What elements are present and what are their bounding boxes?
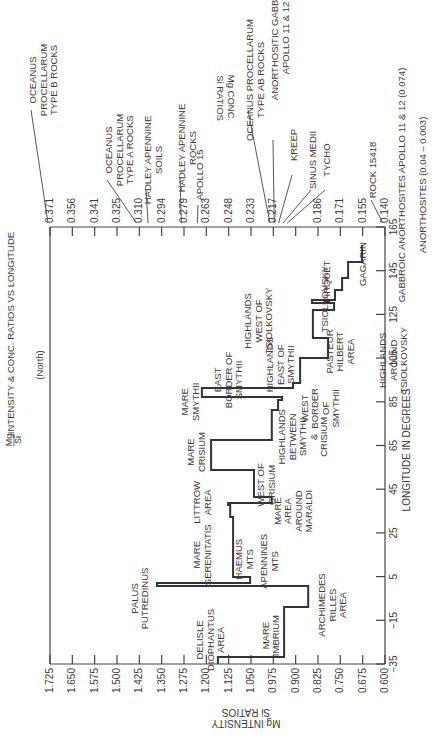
region-label-line: SMYTHII [330, 389, 341, 428]
reference-label-line: APOLLO 15 [194, 149, 205, 200]
chart: 1.7251.6501.5751.5001.4251.3501.2751.200… [0, 0, 445, 740]
conc-tick-label-line: 0.233 [245, 198, 256, 223]
intensity-tick-label: 1.575 [89, 668, 100, 693]
region-label-line: AREA [202, 489, 213, 516]
conc-tick-label: 0.233 [245, 198, 256, 223]
intensity-tick-label: 0.825 [312, 668, 323, 693]
intensity-tick-label-line: 1.425 [133, 668, 144, 693]
region-label-line: DIOPHANTUS [205, 609, 216, 671]
region-label-line: HAEMUS [233, 539, 244, 580]
conc-tick-label-line: 0.171 [334, 198, 345, 223]
region-label: PIRQUET [321, 260, 332, 302]
reference-label-line: APOLLO 11 & 12 [280, 2, 291, 75]
region-label-line: PALUS [129, 583, 140, 613]
region-label: MAREAREAAROUNDMARALDI [272, 490, 315, 532]
intensity-tick-label-line: 0.675 [357, 668, 368, 693]
title-frac-den: Si [13, 436, 23, 444]
chart-subtitle: (North) [34, 350, 45, 380]
intensity-tick-label-line: 0.825 [312, 668, 323, 693]
region-label: WEST OFCRISIUM [255, 463, 277, 506]
region-label-line: APENNINES [258, 534, 269, 589]
reference-label-line: OCEANUS [27, 57, 38, 104]
y2-axis-title: Mg CONC.Si RATIOS [215, 75, 237, 121]
longitude-tick-label-line: 65 [388, 440, 399, 452]
reference-label-line: HADLEY APENNINE [142, 116, 153, 205]
region-label-line: TSIOLKOVSKY [263, 287, 274, 354]
region-label-line: AREA [215, 626, 226, 653]
reference-label-line: TYPE AB ROCKS [255, 42, 266, 118]
chart-title: INTENSITY & CONC. RATIOS VS LONGITUDE [5, 232, 16, 434]
region-label: HAEMUSMTS [233, 539, 255, 580]
conc-tick-label: 0.279 [178, 198, 189, 223]
region-label-line: AREA [282, 497, 293, 524]
region-label: LITTROWAREA [191, 481, 213, 524]
longitude-tick-label: 45 [388, 483, 399, 495]
intensity-tick-label-line: 1.350 [156, 668, 167, 693]
region-label-line: SMYTHII [297, 417, 308, 456]
region-label-line: AROUND [388, 340, 399, 381]
longitude-tick-label: −35 [388, 655, 399, 672]
reference-label-line: ROCK 15418 [367, 142, 378, 199]
y-axis-title: Mg INTENSITYSi RATIOS [211, 707, 280, 729]
x-axis-title-line: LONGITUDE IN DEGREES [401, 388, 412, 511]
intensity-tick-label-line: 1.725 [44, 668, 55, 693]
longitude-tick-label-line: 5 [388, 573, 399, 579]
y2-axis-title-line: Mg CONC. [226, 75, 237, 121]
reference-label: ANORTHOSITIC GABBROICAPOLLO 11 & 12 [269, 0, 291, 100]
reference-arrow [31, 110, 48, 223]
region-labels: DELISLEDIOPHANTUSAREAMAREIMBRIUMARCHIMED… [129, 242, 410, 671]
region-label-line: SMYTHII [233, 361, 244, 400]
region-label-line: AROUND [293, 490, 304, 531]
intensity-tick-label-line: 0.900 [290, 668, 301, 693]
reference-arrow [197, 205, 198, 223]
region-label: MAREIMBRIUM [260, 615, 282, 656]
conc-tick-label-line: 0.155 [357, 198, 368, 223]
longitude-tick-label: 65 [388, 440, 399, 452]
intensity-tick-label: 1.725 [44, 668, 55, 693]
reference-label: OCEANUSPROCELLARUMTYPE B ROCKS [27, 44, 59, 116]
region-label-line: MTS [269, 551, 280, 571]
intensity-tick-label: 1.650 [66, 668, 77, 693]
region-label-line: HIGHLANDS [276, 409, 287, 464]
region-label-line: PIRQUET [321, 260, 332, 302]
intensity-tick-label: 0.750 [334, 668, 345, 693]
longitude-tick-label: 125 [388, 306, 399, 323]
conc-tick-label-line: 0.341 [89, 198, 100, 223]
conc-tick-label: 0.248 [223, 198, 234, 223]
reference-label: GABBROIC ANORTHOSITES APOLLO 11 & 12 (0.… [396, 68, 407, 303]
region-label-line: SMYTHII [285, 345, 296, 384]
y-axis-title-line: Mg INTENSITY [211, 718, 280, 729]
conc-tick-label-line: 0.279 [178, 198, 189, 223]
region-label: MARECRISIUM [185, 432, 207, 472]
region-label-line: HIGHLANDS [242, 293, 253, 348]
region-label-line: PASTEUR [324, 329, 335, 373]
region-label: EASTBORDER OFSMYTHII [212, 352, 244, 409]
reference-label: ROCK 15418 [367, 142, 378, 199]
intensity-tick-label-line: 1.500 [111, 668, 122, 693]
reference-label-line: SOILS [153, 146, 164, 174]
region-label: GAGARIN [357, 242, 368, 286]
region-label-line: WEST OF [253, 299, 264, 342]
region-label: HIGHLANDSAROUNDTSIOLKOVSKY [377, 326, 409, 393]
region-label-line: MTS [244, 549, 255, 569]
conc-tick-label: 0.341 [89, 198, 100, 223]
region-label-line: LITTROW [191, 481, 202, 524]
region-label-line: BETWEEN [287, 413, 298, 460]
reference-label: HADLEY APENNINESOILS [142, 116, 164, 205]
reference-label-line: ANORTHOSITES (0.04 – 0.003) [417, 117, 428, 254]
region-label-line: IMBRIUM [270, 615, 281, 656]
intensity-tick-label: 0.975 [267, 668, 278, 693]
title-frac-den-line: Si [13, 436, 23, 444]
region-label: WESTBORDEROFSMYTHII [299, 388, 342, 429]
region-label-line: RILLES [327, 589, 338, 622]
intensity-tick-label-line: 1.050 [245, 668, 256, 693]
reference-label: TYCHO [321, 143, 332, 176]
intensity-tick-label-line: 1.275 [178, 668, 189, 693]
reference-annotations: OCEANUSPROCELLARUMTYPE B ROCKSOCEANUSPRO… [27, 0, 428, 302]
intensity-tick-label-line: 1.575 [89, 668, 100, 693]
reference-label-line: HADLEY APENNINE [176, 104, 187, 193]
region-label-line: BORDER [309, 388, 320, 429]
intensity-tick-label: 0.900 [290, 668, 301, 693]
conc-tick-label-line: 0.356 [66, 198, 77, 223]
reference-label-line: PROCELLARUM [38, 44, 49, 116]
